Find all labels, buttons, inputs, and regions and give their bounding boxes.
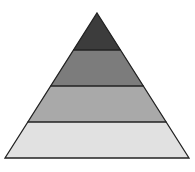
pyramid-level-1 [73,13,120,50]
pyramid-diagram [0,0,195,172]
pyramid-level-2 [51,50,144,86]
pyramid-level-3 [28,86,167,122]
pyramid-level-4 [5,122,189,158]
